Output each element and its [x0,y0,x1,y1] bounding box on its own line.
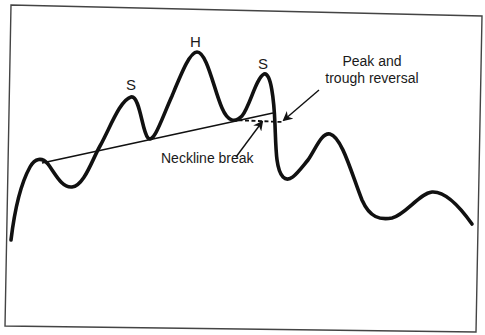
left-shoulder-label: S [126,77,136,92]
neckline-break-label: Neckline break [161,150,254,167]
peak-trough-reversal-label: Peak and trough reversal [316,53,428,87]
right-shoulder-label: S [258,56,268,71]
head-and-shoulders-diagram [0,0,485,335]
peak-trough-reversal-line1: Peak and [316,53,428,70]
peak-trough-reversal-arrow [284,90,319,120]
peak-trough-reversal-line2: trough reversal [316,70,428,87]
head-label: H [190,34,201,49]
